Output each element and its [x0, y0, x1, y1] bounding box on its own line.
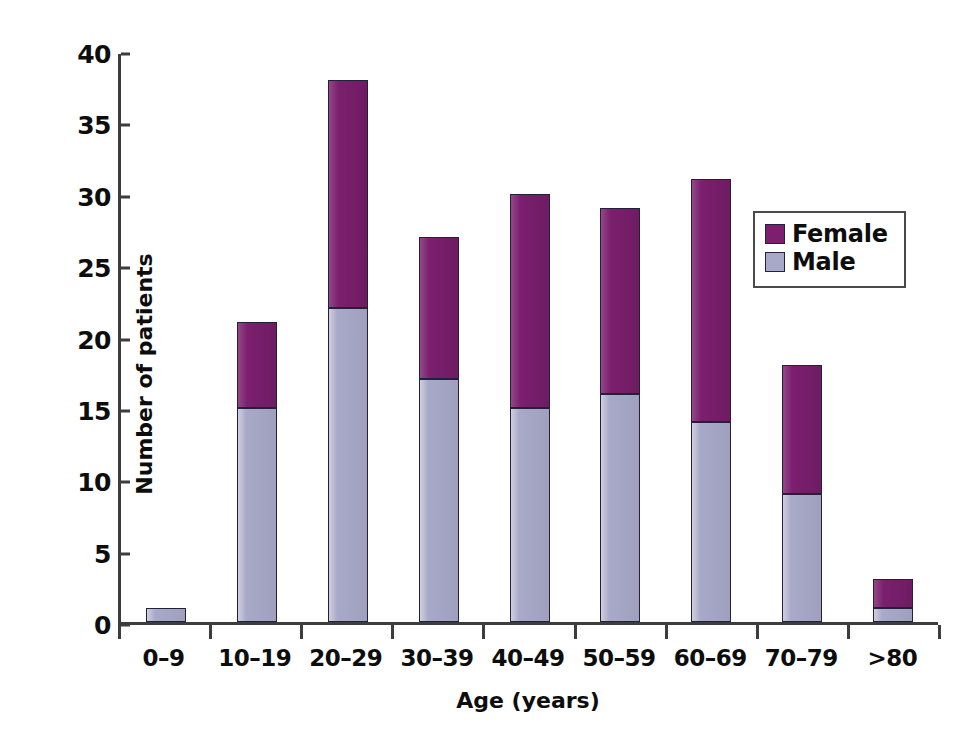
bar-segment-female[interactable] [691, 179, 731, 422]
y-axis-tick-label: 15 [77, 398, 121, 423]
y-axis-tick-label: 35 [77, 113, 121, 138]
y-axis-tick: 30 [77, 184, 121, 209]
x-axis-tick-mark [665, 625, 668, 639]
bar-segment-male[interactable] [328, 308, 368, 622]
x-axis-tick-mark [574, 625, 577, 639]
bar-stack[interactable] [328, 80, 368, 622]
bar-slot [847, 54, 938, 622]
bar-segment-male[interactable] [782, 494, 822, 622]
bar-chart: Number of patients 4035302520151050 0–91… [0, 0, 959, 748]
bar-stack[interactable] [782, 365, 822, 622]
x-axis-tick-label: 60–69 [665, 645, 756, 671]
bar-segment-female[interactable] [600, 208, 640, 394]
bar-slot [666, 54, 757, 622]
bar-stack[interactable] [873, 579, 913, 622]
legend-label-female: Female [792, 221, 888, 248]
legend-swatch-male-icon [765, 252, 785, 272]
x-axis-tick-label: 70–79 [756, 645, 847, 671]
legend-item-male[interactable]: Male [765, 249, 888, 276]
x-axis-tick-mark [391, 625, 394, 639]
y-axis-tick: 25 [77, 256, 121, 281]
bar-slot [484, 54, 575, 622]
legend-item-female[interactable]: Female [765, 221, 888, 248]
chart-legend: Female Male [753, 211, 906, 288]
legend-label-male: Male [792, 249, 855, 276]
bar-segment-male[interactable] [873, 608, 913, 622]
x-axis-labels: 0–910–1920–2930–3940–4950–5960–6970–79>8… [118, 645, 938, 671]
bar-segment-female[interactable] [782, 365, 822, 493]
legend-swatch-female-icon [765, 224, 785, 244]
y-axis-tick-label: 20 [77, 327, 121, 352]
plot-area: 4035302520151050 [118, 54, 938, 625]
y-axis-tick-label: 5 [94, 541, 121, 566]
y-axis-tick-label: 30 [77, 184, 121, 209]
x-axis-tick-label: >80 [847, 645, 938, 671]
bar-segment-female[interactable] [510, 194, 550, 408]
x-axis-title: Age (years) [118, 688, 938, 713]
bar-series-container [121, 54, 938, 622]
y-axis-tick: 10 [77, 470, 121, 495]
bar-segment-female[interactable] [873, 579, 913, 608]
bar-stack[interactable] [419, 237, 459, 622]
bar-stack[interactable] [691, 179, 731, 622]
bar-segment-male[interactable] [600, 394, 640, 622]
y-axis-tick: 40 [77, 42, 121, 67]
x-axis-tick-label: 40–49 [482, 645, 573, 671]
bar-segment-female[interactable] [237, 322, 277, 408]
bar-stack[interactable] [146, 608, 186, 622]
bar-segment-male[interactable] [146, 608, 186, 622]
x-axis-tick-mark [118, 625, 121, 639]
bar-segment-female[interactable] [419, 237, 459, 380]
y-axis-tick: 0 [94, 613, 121, 638]
x-axis-tick-mark [209, 625, 212, 639]
x-axis-tick-mark [756, 625, 759, 639]
y-axis-tick-label: 40 [77, 42, 121, 67]
bar-slot [212, 54, 303, 622]
x-axis-tick-mark [938, 625, 941, 639]
bar-slot [393, 54, 484, 622]
x-axis-tick-label: 30–39 [391, 645, 482, 671]
bar-stack[interactable] [510, 194, 550, 622]
bar-stack[interactable] [600, 208, 640, 622]
x-axis-ticks [118, 625, 938, 641]
bar-segment-male[interactable] [419, 379, 459, 622]
x-axis-tick-mark [482, 625, 485, 639]
bar-slot [121, 54, 212, 622]
bar-stack[interactable] [237, 322, 277, 622]
x-axis-tick-mark [847, 625, 850, 639]
y-axis-tick: 5 [94, 541, 121, 566]
x-axis-tick-label: 0–9 [118, 645, 209, 671]
x-axis-tick-label: 50–59 [574, 645, 665, 671]
y-axis-tick: 35 [77, 113, 121, 138]
y-axis-tick-label: 25 [77, 256, 121, 281]
bar-slot [575, 54, 666, 622]
x-axis-tick-mark [300, 625, 303, 639]
bar-slot [303, 54, 394, 622]
bar-segment-male[interactable] [510, 408, 550, 622]
bar-segment-male[interactable] [237, 408, 277, 622]
y-axis-tick-label: 0 [94, 613, 121, 638]
y-axis-tick-label: 10 [77, 470, 121, 495]
bar-segment-male[interactable] [691, 422, 731, 622]
y-axis-tick: 20 [77, 327, 121, 352]
y-axis-tick: 15 [77, 398, 121, 423]
bar-slot [756, 54, 847, 622]
bar-segment-female[interactable] [328, 80, 368, 308]
x-axis-tick-label: 20–29 [300, 645, 391, 671]
x-axis-tick-label: 10–19 [209, 645, 300, 671]
